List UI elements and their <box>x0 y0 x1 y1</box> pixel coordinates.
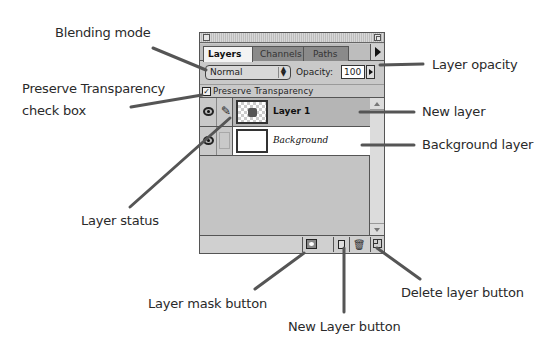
eye-icon <box>203 136 214 145</box>
callout-layer-mask-button: Layer mask button <box>148 293 267 315</box>
palette-menu-arrow-icon[interactable] <box>370 44 384 60</box>
callout-delete-layer-button: Delete layer button <box>401 282 524 304</box>
palette-titlebar[interactable] <box>200 33 384 43</box>
layer-thumbnail <box>236 100 268 124</box>
layers-palette: Layers Channels Paths Normal ▲▼ Opacity:… <box>199 32 385 254</box>
callout-preserve-transparency-line1: Preserve Transparency <box>22 78 165 100</box>
blending-mode-value: Normal <box>210 67 243 77</box>
callout-background-layer: Background layer <box>422 134 533 156</box>
visibility-toggle[interactable] <box>200 127 217 155</box>
paintbrush-icon: ✎ <box>221 104 231 118</box>
layers-scrollbar[interactable] <box>370 98 384 235</box>
callout-layer-status: Layer status <box>81 210 159 232</box>
blending-mode-select[interactable]: Normal ▲▼ <box>205 65 291 80</box>
layer-status-cell[interactable] <box>217 127 233 155</box>
delete-layer-button[interactable]: 🗑 <box>349 237 369 252</box>
layers-list: ✎ Layer 1 Background <box>200 98 370 235</box>
trash-icon: 🗑 <box>353 240 366 250</box>
visibility-toggle[interactable] <box>200 98 217 126</box>
layer-name: Layer 1 <box>273 106 310 116</box>
tab-row: Layers Channels Paths <box>200 44 384 61</box>
preserve-transparency-checkbox[interactable]: ✓ <box>202 87 211 96</box>
layer-mask-button[interactable] <box>302 237 320 252</box>
preserve-transparency-row: ✓ Preserve Transparency <box>200 84 384 98</box>
new-layer-icon <box>338 240 345 249</box>
leader-layer-opacity <box>380 64 423 65</box>
grow-box-inner-icon <box>373 239 378 244</box>
layer-row-background[interactable]: Background <box>200 127 370 156</box>
tab-paths[interactable]: Paths <box>303 46 349 61</box>
tab-layers[interactable]: Layers <box>203 46 253 62</box>
callout-new-layer: New layer <box>422 101 485 123</box>
layer-name: Background <box>273 135 328 145</box>
resize-grow-box[interactable] <box>370 237 384 252</box>
scroll-down-arrow-icon[interactable] <box>370 223 384 235</box>
palette-footer: 🗑 <box>200 235 384 253</box>
layer-status-cell[interactable]: ✎ <box>217 98 233 126</box>
layer-thumbnail <box>236 129 268 153</box>
opacity-input[interactable]: 100 <box>341 65 365 79</box>
opacity-label: Opacity: <box>296 67 333 77</box>
leader-layer-mask <box>255 253 304 289</box>
eye-icon <box>203 107 214 116</box>
zoom-box-icon[interactable] <box>374 34 381 41</box>
new-layer-button[interactable] <box>333 237 349 252</box>
close-box-icon[interactable] <box>203 34 210 41</box>
controls-row: Normal ▲▼ Opacity: 100 <box>200 62 384 84</box>
empty-status-box <box>219 132 230 149</box>
layer-row-layer-1[interactable]: ✎ Layer 1 <box>200 98 370 127</box>
opacity-slider-arrow-icon[interactable] <box>366 65 375 79</box>
layer-mask-icon <box>306 239 317 249</box>
callout-blending-mode: Blending mode <box>55 22 151 44</box>
callout-preserve-transparency-line2: check box <box>22 100 86 122</box>
preserve-transparency-label: Preserve Transparency <box>213 86 314 96</box>
callout-layer-opacity: Layer opacity <box>432 54 518 76</box>
callout-new-layer-button: New Layer button <box>288 316 401 338</box>
scroll-up-arrow-icon[interactable] <box>370 98 384 110</box>
tab-channels[interactable]: Channels <box>250 46 306 61</box>
select-arrows-icon: ▲▼ <box>278 67 288 78</box>
